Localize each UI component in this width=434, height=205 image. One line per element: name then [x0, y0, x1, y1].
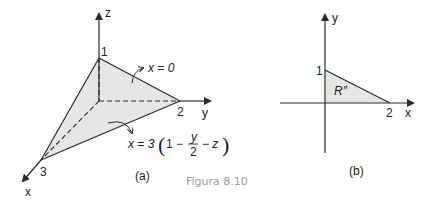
- panel-b: y x 1 2 R″ (b): [280, 11, 413, 178]
- surface-equation: x = 3 ( 1 − y 2 − z ): [127, 130, 229, 159]
- plane-x0-label: x = 0: [147, 61, 175, 75]
- y-axis-label: y: [202, 106, 208, 120]
- surface-eq-denominator: 2: [190, 145, 197, 159]
- surface-eq-suffix: − z: [202, 137, 218, 151]
- b-x-intercept-label: 2: [386, 106, 393, 120]
- z-intercept-label: 1: [101, 45, 108, 59]
- surface-eq-numerator: y: [190, 130, 198, 144]
- panel-a: z y x 1 2 3 x = 0 x = 3 ( 1 − y 2 − z ) …: [23, 6, 229, 199]
- right-paren: ): [222, 132, 229, 157]
- x-axis: [23, 160, 41, 181]
- surface-eq-one: 1 −: [166, 137, 183, 151]
- surface-eq-prefix: x = 3: [127, 137, 155, 151]
- x-axis-label: x: [25, 185, 31, 199]
- b-y-intercept-label: 1: [316, 64, 323, 78]
- b-y-axis-label: y: [332, 11, 338, 25]
- figure-caption: Figura 8.10: [186, 175, 248, 188]
- panel-b-label: (b): [349, 164, 364, 178]
- left-paren: (: [158, 132, 165, 157]
- x-intercept-label: 3: [40, 165, 47, 179]
- z-axis-label: z: [105, 6, 111, 20]
- region-label: R″: [334, 84, 348, 98]
- figure-canvas: z y x 1 2 3 x = 0 x = 3 ( 1 − y 2 − z ) …: [0, 0, 434, 205]
- b-x-axis-label: x: [405, 106, 411, 120]
- panel-a-label: (a): [135, 169, 150, 183]
- y-intercept-label: 2: [177, 105, 184, 119]
